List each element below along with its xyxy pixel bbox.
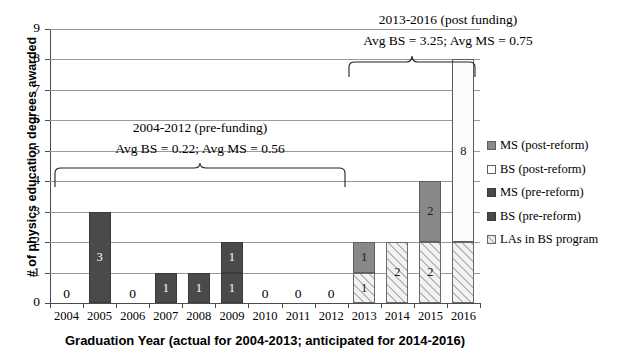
y-tick-label-8: 8: [20, 50, 40, 66]
bar-segment-2009-ms-pre-reform[interactable]: 1: [221, 242, 243, 272]
x-tick-mark: [447, 303, 448, 308]
bar-2007[interactable]: 1: [155, 273, 177, 303]
x-tick-mark: [116, 303, 117, 308]
bar-segment-2005-ms-pre-reform[interactable]: 3: [89, 212, 111, 303]
legend-label: BS (post-reform): [500, 162, 586, 177]
bar-2016[interactable]: 8: [452, 59, 474, 303]
y-tick-mark: [45, 151, 50, 152]
y-tick-mark: [45, 59, 50, 60]
y-tick-mark: [45, 90, 50, 91]
bar-2011[interactable]: [287, 302, 309, 303]
bracket-post-funding: [345, 52, 485, 78]
annotation-pre-funding: 2004-2012 (pre-funding) Avg BS = 0.22; A…: [65, 120, 335, 157]
y-tick-label-0: 0: [20, 294, 40, 310]
y-tick-mark: [45, 273, 50, 274]
x-tick-label-2016: 2016: [441, 309, 485, 324]
legend-item-3[interactable]: BS (pre-reform): [487, 205, 617, 229]
y-tick-label-5: 5: [20, 142, 40, 158]
legend-swatch-icon: [487, 188, 496, 197]
y-tick-label-7: 7: [20, 81, 40, 97]
legend-item-0[interactable]: MS (post-reform): [487, 134, 617, 158]
bar-segment-2014-las-in-bs-program[interactable]: 2: [386, 242, 408, 303]
x-tick-mark: [215, 303, 216, 308]
annotation-pre-funding-line1: 2004-2012 (pre-funding): [65, 120, 335, 136]
bar-2009[interactable]: 11: [221, 242, 243, 303]
bar-zero-label-2004: 0: [45, 286, 89, 302]
y-tick-mark: [45, 120, 50, 121]
legend-item-2[interactable]: MS (pre-reform): [487, 181, 617, 205]
bar-segment-2015-las-in-bs-program[interactable]: 2: [419, 242, 441, 303]
legend-swatch-icon: [487, 141, 496, 150]
bar-segment-2016-las-in-bs-program[interactable]: [452, 242, 474, 303]
legend-label: MS (pre-reform): [500, 185, 584, 200]
x-tick-mark: [248, 303, 249, 308]
x-axis-line: [50, 303, 480, 304]
y-tick-label-9: 9: [20, 20, 40, 36]
legend-label: BS (pre-reform): [500, 209, 581, 224]
chart-figure: # of physics education degrees awarded G…: [0, 0, 621, 357]
legend: MS (post-reform)BS (post-reform)MS (pre-…: [487, 134, 617, 252]
bar-2006[interactable]: [122, 302, 144, 303]
gridline-2: [50, 242, 480, 243]
gridline-3: [50, 212, 480, 213]
bar-2010[interactable]: [254, 302, 276, 303]
bracket-pre-funding: [50, 160, 360, 188]
bar-2013[interactable]: 11: [353, 242, 375, 303]
annotation-post-funding: 2013-2016 (post funding) Avg BS = 3.25; …: [308, 12, 588, 49]
y-tick-label-4: 4: [20, 172, 40, 188]
y-tick-mark: [45, 212, 50, 213]
bar-segment-2016-bs-post-reform[interactable]: 8: [452, 59, 474, 242]
bar-zero-label-2006: 0: [111, 286, 155, 302]
y-tick-label-2: 2: [20, 233, 40, 249]
bar-2005[interactable]: 3: [89, 212, 111, 303]
bar-segment-2013-las-in-bs-program[interactable]: 1: [353, 273, 375, 303]
annotation-pre-funding-line2: Avg BS = 0.22; Avg MS = 0.56: [65, 141, 335, 157]
x-axis-label: Graduation Year (actual for 2004-2013; a…: [40, 333, 490, 348]
x-tick-mark: [282, 303, 283, 308]
x-tick-mark: [414, 303, 415, 308]
bar-segment-2015-ms-post-reform[interactable]: 2: [419, 181, 441, 242]
y-tick-mark: [45, 29, 50, 30]
bar-2012[interactable]: [320, 302, 342, 303]
x-tick-mark: [149, 303, 150, 308]
x-tick-mark: [182, 303, 183, 308]
legend-item-1[interactable]: BS (post-reform): [487, 158, 617, 182]
bar-segment-2007-ms-pre-reform[interactable]: 1: [155, 273, 177, 303]
bar-segment-2008-ms-pre-reform[interactable]: 1: [188, 273, 210, 303]
y-tick-label-6: 6: [20, 111, 40, 127]
legend-swatch-icon: [487, 165, 496, 174]
legend-item-4[interactable]: LAs in BS program: [487, 228, 617, 252]
gridline-7: [50, 90, 480, 91]
legend-label: MS (post-reform): [500, 138, 589, 153]
x-tick-mark: [315, 303, 316, 308]
x-tick-mark: [348, 303, 349, 308]
annotation-post-funding-line1: 2013-2016 (post funding): [308, 12, 588, 28]
bar-2008[interactable]: 1: [188, 273, 210, 303]
y-tick-label-1: 1: [20, 264, 40, 280]
x-tick-mark: [50, 303, 51, 308]
legend-swatch-icon: [487, 235, 496, 244]
bar-segment-2013-ms-post-reform[interactable]: 1: [353, 242, 375, 272]
bar-zero-label-2012: 0: [309, 286, 353, 302]
x-tick-mark: [480, 303, 481, 308]
annotation-post-funding-line2: Avg BS = 3.25; Avg MS = 0.75: [308, 33, 588, 49]
x-tick-mark: [83, 303, 84, 308]
legend-swatch-icon: [487, 212, 496, 221]
x-tick-mark: [381, 303, 382, 308]
y-tick-label-3: 3: [20, 203, 40, 219]
y-tick-mark: [45, 242, 50, 243]
gridline-1: [50, 273, 480, 274]
bar-segment-2009-bs-pre-reform[interactable]: 1: [221, 273, 243, 303]
bar-2014[interactable]: 2: [386, 242, 408, 303]
legend-label: LAs in BS program: [500, 232, 598, 247]
bar-2015[interactable]: 22: [419, 181, 441, 303]
bar-2004[interactable]: [56, 302, 78, 303]
